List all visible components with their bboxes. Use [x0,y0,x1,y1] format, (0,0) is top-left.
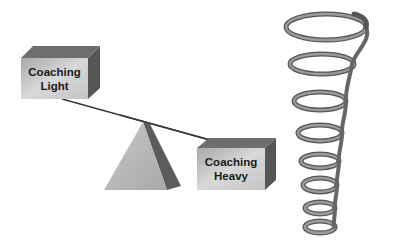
label-coaching-heavy: Coaching Heavy [197,155,265,183]
label-coaching-light-line1: Coaching [21,65,88,79]
label-coaching-light-line2: Light [21,79,88,93]
label-coaching-heavy-line1: Coaching [197,155,265,169]
spiral-icon [286,14,367,233]
label-coaching-light: Coaching Light [21,65,88,93]
fulcrum-triangle [104,122,181,190]
label-coaching-heavy-line2: Heavy [197,169,265,183]
diagram-canvas [0,0,397,245]
